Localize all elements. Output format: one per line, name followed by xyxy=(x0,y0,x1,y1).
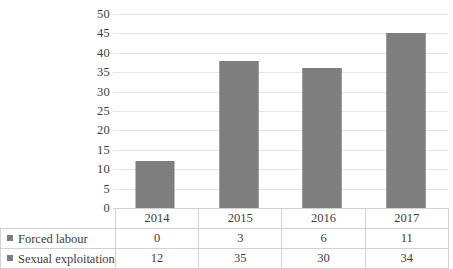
table-cell-sexual-exploitation-2017: 34 xyxy=(365,249,448,269)
bar-segment-sexual-exploitation-2014 xyxy=(135,161,174,208)
bar-slot-2017 xyxy=(364,14,448,208)
table-header-2017: 2017 xyxy=(365,209,448,229)
bar-2014 xyxy=(135,161,174,208)
y-axis-tick-40: 40 xyxy=(76,47,110,60)
legend-label: Sexual exploitation xyxy=(18,252,115,266)
y-axis-tick-45: 45 xyxy=(76,27,110,40)
y-axis-tick-20: 20 xyxy=(76,124,110,137)
y-axis-tick-15: 15 xyxy=(76,144,110,157)
legend-item-forced-labour[interactable]: Forced labour xyxy=(1,229,116,249)
bar-segment-forced-labour-2015 xyxy=(219,196,258,208)
legend-square-icon xyxy=(7,235,13,241)
y-axis-tick-35: 35 xyxy=(76,66,110,79)
table-header-2015: 2015 xyxy=(199,209,282,229)
data-table: 2014201520162017Forced labour03611Sexual… xyxy=(0,208,449,269)
table-cell-forced-labour-2017: 11 xyxy=(365,229,448,249)
table-cell-sexual-exploitation-2014: 12 xyxy=(115,249,198,269)
bar-2016 xyxy=(303,68,342,208)
bar-2017 xyxy=(387,33,426,208)
bar-2015 xyxy=(219,61,258,208)
bar-slot-2014 xyxy=(113,14,197,208)
bars-layer xyxy=(113,14,448,208)
legend-square-icon xyxy=(7,255,13,261)
table-header-row: 2014201520162017 xyxy=(1,209,449,229)
bar-segment-sexual-exploitation-2015 xyxy=(219,61,258,197)
bar-slot-2016 xyxy=(281,14,365,208)
table-header-2016: 2016 xyxy=(282,209,365,229)
bar-slot-2015 xyxy=(197,14,281,208)
y-axis-tick-10: 10 xyxy=(76,163,110,176)
legend-label: Forced labour xyxy=(18,232,88,246)
y-axis-tick-30: 30 xyxy=(76,86,110,99)
table-cell-forced-labour-2014: 0 xyxy=(115,229,198,249)
bar-segment-sexual-exploitation-2016 xyxy=(303,68,342,184)
table-row: Forced labour03611 xyxy=(1,229,449,249)
table-cell-sexual-exploitation-2015: 35 xyxy=(199,249,282,269)
y-axis: 50454035302520151050 xyxy=(70,14,110,208)
table-row: Sexual exploitation12353034 xyxy=(1,249,449,269)
plot-area xyxy=(113,14,448,208)
bar-segment-forced-labour-2016 xyxy=(303,185,342,208)
bar-segment-sexual-exploitation-2017 xyxy=(387,33,426,165)
table-cell-forced-labour-2015: 3 xyxy=(199,229,282,249)
table-cell-sexual-exploitation-2016: 30 xyxy=(282,249,365,269)
table-corner-cell xyxy=(1,209,116,229)
table-cell-forced-labour-2016: 6 xyxy=(282,229,365,249)
y-axis-tick-25: 25 xyxy=(76,105,110,118)
y-axis-tick-50: 50 xyxy=(76,8,110,21)
table-header-2014: 2014 xyxy=(115,209,198,229)
legend-item-sexual-exploitation[interactable]: Sexual exploitation xyxy=(1,249,116,269)
y-axis-tick-5: 5 xyxy=(76,183,110,196)
bar-segment-forced-labour-2017 xyxy=(387,165,426,208)
